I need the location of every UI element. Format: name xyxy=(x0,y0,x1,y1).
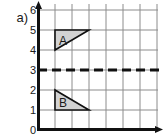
triangle-b-label: B xyxy=(59,96,67,110)
triangle-a-label: A xyxy=(59,34,67,48)
coordinate-grid-figure: a) 0 1 2 3 4 5 6 xyxy=(0,0,165,136)
y-axis xyxy=(35,1,42,130)
x-axis xyxy=(37,126,163,133)
plot-canvas: A B xyxy=(0,0,165,136)
vertical-gridlines xyxy=(55,4,157,130)
y-axis-arrowhead xyxy=(35,1,42,9)
x-axis-arrowhead xyxy=(155,126,163,133)
